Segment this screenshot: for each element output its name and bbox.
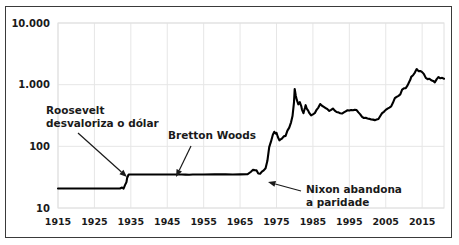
annotation-label-nixon: Nixon abandona — [306, 183, 402, 195]
annotation-label-bretton-woods: Bretton Woods — [168, 129, 256, 141]
x-tick-label: 2015 — [409, 216, 435, 227]
x-axis-tick-labels: 1915192519351945195519651975198519952005… — [45, 216, 436, 227]
y-tick-label: 1.000 — [18, 79, 50, 90]
x-tick-label: 1975 — [263, 216, 289, 227]
x-tick-label: 1935 — [118, 216, 144, 227]
y-axis-tick-labels: 10.0001.00010010 — [11, 18, 50, 214]
gridlines — [58, 23, 444, 208]
x-tick-label: 1985 — [300, 216, 326, 227]
annotation-label-nixon: a paridade — [306, 196, 369, 208]
annotation-arrow-roosevelt — [78, 133, 121, 172]
y-tick-label: 100 — [29, 141, 50, 152]
annotation-label-roosevelt: desvaloriza o dólar — [46, 117, 160, 129]
x-tick-label: 1995 — [336, 216, 362, 227]
x-tick-label: 1965 — [227, 216, 253, 227]
x-tick-label: 2005 — [373, 216, 399, 227]
chart-frame: 10.0001.00010010 19151925193519451955196… — [5, 6, 452, 238]
x-tick-label: 1925 — [81, 216, 107, 227]
annotation-arrow-nixon — [275, 184, 301, 191]
x-tick-label: 1955 — [190, 216, 216, 227]
annotation-label-roosevelt: Roosevelt — [46, 104, 104, 116]
x-tick-label: 1915 — [45, 216, 71, 227]
annotation-arrowhead-bretton-woods — [176, 169, 182, 177]
annotation-arrowhead-nixon — [268, 181, 276, 187]
x-tick-label: 1945 — [154, 216, 180, 227]
chart-page: 10.0001.00010010 19151925193519451955196… — [0, 0, 459, 245]
annotation-layer: Rooseveltdesvaloriza o dólarBretton Wood… — [46, 104, 402, 208]
gold-price-log-chart: 10.0001.00010010 19151925193519451955196… — [6, 7, 450, 236]
annotation-arrow-bretton-woods — [179, 146, 191, 170]
y-tick-label: 10 — [36, 203, 50, 214]
y-tick-label: 10.000 — [11, 18, 50, 29]
